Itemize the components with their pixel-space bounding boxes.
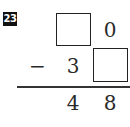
subtrahend-ones-answer-box[interactable] (93, 48, 128, 82)
minus-sign: − (29, 56, 45, 76)
result-tens-digit: 4 (66, 93, 80, 113)
minuend-ones-digit: 0 (103, 20, 117, 40)
result-ones-digit: 8 (103, 93, 117, 113)
minuend-tens-answer-box[interactable] (56, 13, 91, 46)
subtrahend-tens-digit: 3 (66, 56, 80, 76)
sum-rule-line (17, 86, 130, 88)
problem-number-badge: 23 (3, 12, 17, 26)
